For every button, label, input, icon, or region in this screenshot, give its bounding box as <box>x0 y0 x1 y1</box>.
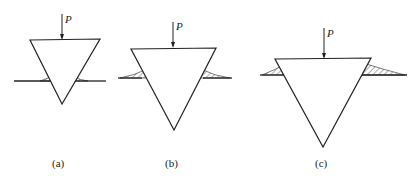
panel-b: P (b) <box>118 20 232 170</box>
panel-caption: (c) <box>315 157 328 170</box>
indenter-triangle <box>131 48 216 130</box>
diagram-canvas: P (a) P (b) P (c) <box>0 0 417 180</box>
panel-a: P (a) <box>14 13 106 170</box>
load-label: P <box>326 27 334 39</box>
load-label: P <box>64 13 72 25</box>
panel-caption: (b) <box>165 157 178 170</box>
indenter-triangle <box>275 58 371 147</box>
arrow-head-icon <box>171 42 175 48</box>
panel-c: P (c) <box>260 27 407 170</box>
panel-caption: (a) <box>52 157 65 170</box>
load-label: P <box>175 20 183 32</box>
indentation-diagram: P (a) P (b) P (c) <box>0 0 417 180</box>
indenter-triangle <box>30 39 100 104</box>
